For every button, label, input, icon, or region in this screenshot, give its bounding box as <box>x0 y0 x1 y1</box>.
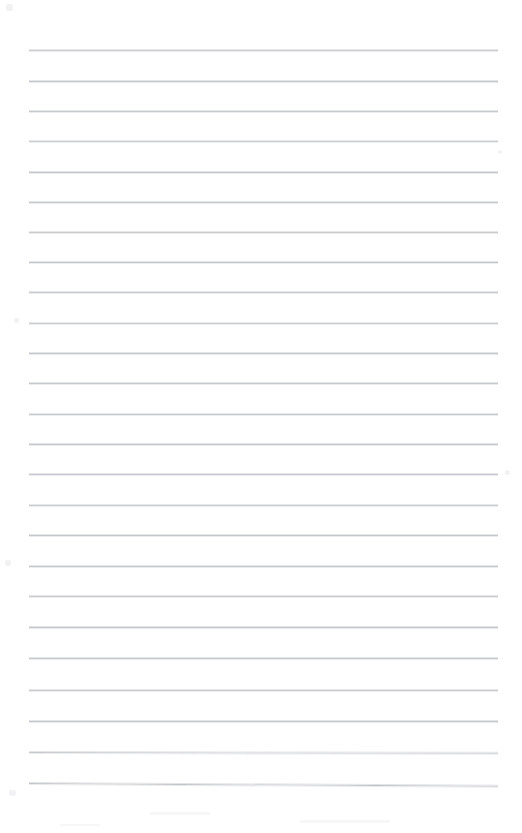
ruled-line <box>29 202 498 203</box>
ruled-line <box>29 505 498 506</box>
ruled-line <box>29 444 498 445</box>
ruled-line <box>29 690 498 691</box>
ruled-line <box>29 566 498 567</box>
ruled-line <box>29 721 498 722</box>
ruled-line <box>29 232 498 233</box>
ruled-line <box>29 414 498 415</box>
ruled-line <box>29 658 498 659</box>
ruled-line <box>29 353 498 354</box>
ruled-line <box>29 111 498 112</box>
ruled-line <box>29 262 498 263</box>
ruled-line <box>29 292 498 293</box>
ruled-line <box>29 535 498 536</box>
ruled-line <box>29 752 498 754</box>
ruled-line <box>29 172 498 173</box>
writing-area[interactable] <box>0 0 522 833</box>
ruled-line <box>29 474 498 475</box>
ruled-line <box>29 323 498 324</box>
ruled-line <box>29 50 498 51</box>
ruled-line <box>29 141 498 142</box>
ruled-line <box>29 81 498 82</box>
ruled-line <box>29 627 498 628</box>
ruled-line <box>29 596 498 597</box>
ruled-line <box>29 383 498 384</box>
paper-page <box>0 0 522 833</box>
